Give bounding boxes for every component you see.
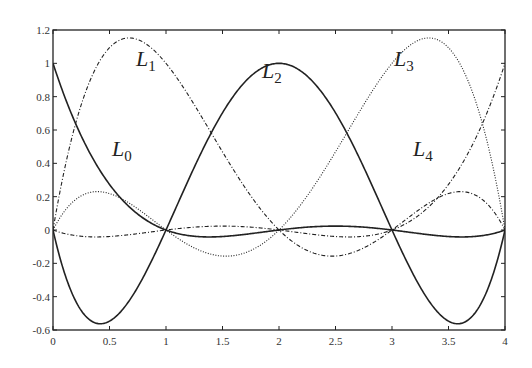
y-tick-label: 1.2 xyxy=(36,24,50,36)
y-tick-label: 0 xyxy=(45,224,51,236)
x-tick-label: 1.5 xyxy=(216,335,230,347)
label-l2: L2 xyxy=(261,58,282,86)
y-tick-label: 0.6 xyxy=(36,124,50,136)
y-tick-label: -0.6 xyxy=(33,324,51,336)
y-tick-label: 1 xyxy=(45,57,51,69)
label-l1: L1 xyxy=(135,46,156,74)
x-tick-label: 2 xyxy=(276,335,282,347)
lagrange-basis-chart: 00.511.522.533.54-0.6-0.4-0.200.20.40.60… xyxy=(0,0,532,368)
x-tick-label: 3 xyxy=(389,335,395,347)
x-tick-label: 2.5 xyxy=(329,335,343,347)
x-tick-label: 4 xyxy=(502,335,508,347)
x-tick-label: 0 xyxy=(50,335,56,347)
label-l3: L3 xyxy=(393,46,414,74)
y-tick-label: -0.4 xyxy=(33,291,51,303)
x-tick-label: 1 xyxy=(163,335,169,347)
label-l0: L0 xyxy=(111,136,132,164)
y-tick-label: 0.2 xyxy=(36,191,50,203)
x-tick-label: 3.5 xyxy=(442,335,456,347)
y-tick-label: 0.4 xyxy=(36,157,50,169)
label-l4: L4 xyxy=(412,136,433,164)
series-labels: L0L1L2L3L4 xyxy=(111,46,433,164)
y-tick-label: -0.2 xyxy=(33,257,50,269)
curve-l2 xyxy=(53,63,505,323)
y-tick-label: 0.8 xyxy=(36,91,50,103)
x-tick-label: 0.5 xyxy=(103,335,117,347)
